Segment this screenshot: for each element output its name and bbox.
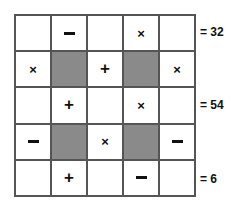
- row-sums-column: = 32 = 54 = 6: [200, 14, 243, 197]
- operator-grid: ××+×+××+: [14, 14, 196, 197]
- minus-icon: [28, 140, 39, 143]
- plus-icon: +: [64, 169, 74, 186]
- grid-cell-r5c3[interactable]: [88, 161, 124, 197]
- grid-cell-r4c2[interactable]: [52, 125, 88, 161]
- times-icon: ×: [101, 135, 109, 148]
- times-icon: ×: [29, 63, 37, 76]
- puzzle-figure: ××+×+××+ = 32 = 54 = 6: [0, 0, 243, 217]
- grid-cell-r4c3[interactable]: ×: [88, 125, 124, 161]
- plus-icon: +: [64, 96, 74, 113]
- row-sum-5: = 6: [200, 160, 243, 197]
- grid-cell-r1c2[interactable]: [52, 16, 88, 52]
- minus-icon: [172, 140, 183, 143]
- grid-cell-r2c4[interactable]: [124, 52, 160, 88]
- grid-cell-r2c3[interactable]: +: [88, 52, 124, 88]
- minus-icon: [136, 176, 147, 179]
- grid-cell-r2c2[interactable]: [52, 52, 88, 88]
- row-sum-1: = 32: [200, 14, 243, 51]
- times-icon: ×: [137, 99, 145, 112]
- grid-cell-r1c4[interactable]: ×: [124, 16, 160, 52]
- times-icon: ×: [137, 27, 145, 40]
- row-sum-label: = 54: [200, 99, 224, 111]
- grid-cell-r5c4[interactable]: [124, 161, 160, 197]
- grid-cell-r3c3[interactable]: [88, 88, 124, 124]
- grid-cell-r2c1[interactable]: ×: [16, 52, 52, 88]
- grid-cell-r5c1[interactable]: [16, 161, 52, 197]
- minus-icon: [64, 32, 75, 35]
- grid-cell-r2c5[interactable]: ×: [160, 52, 196, 88]
- grid-cell-r3c5[interactable]: [160, 88, 196, 124]
- grid-cell-r4c4[interactable]: [124, 125, 160, 161]
- times-icon: ×: [173, 63, 181, 76]
- grid-cell-r5c2[interactable]: +: [52, 161, 88, 197]
- grid-cell-r4c1[interactable]: [16, 125, 52, 161]
- grid-cell-r3c2[interactable]: +: [52, 88, 88, 124]
- grid-cell-r4c5[interactable]: [160, 125, 196, 161]
- grid-cell-r1c1[interactable]: [16, 16, 52, 52]
- plus-icon: +: [100, 60, 110, 77]
- row-sum-label: = 32: [200, 26, 224, 38]
- grid-cell-r1c3[interactable]: [88, 16, 124, 52]
- row-sum-3: = 54: [200, 87, 243, 124]
- grid-cell-r5c5[interactable]: [160, 161, 196, 197]
- grid-cell-r3c1[interactable]: [16, 88, 52, 124]
- grid-cell-r3c4[interactable]: ×: [124, 88, 160, 124]
- row-sum-label: = 6: [200, 173, 217, 185]
- grid-cell-r1c5[interactable]: [160, 16, 196, 52]
